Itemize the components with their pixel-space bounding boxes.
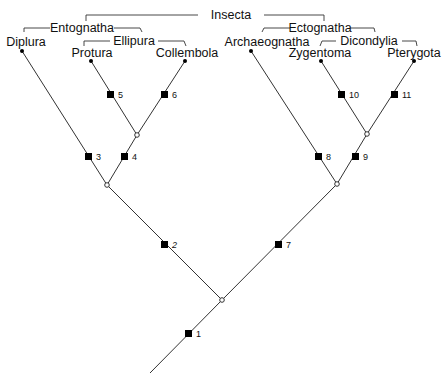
marker-1: [185, 330, 192, 337]
marker-6: [161, 91, 168, 98]
marker-4: [121, 153, 128, 160]
terminal-dot-diplura: [20, 49, 24, 53]
apomorphy-label-5: 5: [118, 90, 123, 100]
terminal-dot-pterygota: [412, 59, 416, 63]
taxon-label-diplura: Diplura: [6, 35, 46, 49]
apomorphy-label-4: 4: [132, 152, 137, 162]
node-insecta: [220, 298, 225, 303]
apomorphy-label-10: 10: [349, 90, 359, 100]
apomorphy-label-3: 3: [96, 152, 101, 162]
apomorphy-label-2: 2: [171, 240, 177, 250]
branch-diplura: [22, 51, 107, 185]
marker-7: [275, 241, 282, 248]
marker-10: [338, 91, 345, 98]
apomorphy-label-11: 11: [402, 90, 411, 100]
marker-11: [391, 91, 398, 98]
taxon-label-zygentoma: Zygentoma: [289, 46, 352, 60]
group-label-entognatha: Entognatha: [50, 21, 114, 35]
node-ellipura: [135, 133, 140, 138]
apomorphy-label-7: 7: [286, 240, 291, 250]
group-label-ectognatha: Ectognatha: [288, 21, 351, 35]
node-ectognatha: [335, 182, 340, 187]
taxon-label-protura: Protura: [72, 46, 113, 60]
taxon-label-collembola: Collembola: [156, 46, 219, 60]
apomorphy-markers: [85, 91, 398, 337]
marker-5: [107, 91, 114, 98]
cladogram: Insecta Entognatha Ellipura Ectognatha D…: [0, 0, 446, 385]
apomorphy-label-1: 1: [196, 329, 201, 339]
marker-8: [315, 153, 322, 160]
terminal-dot-collembola: [183, 59, 187, 63]
marker-2: [161, 241, 168, 248]
apomorphy-label-6: 6: [172, 90, 177, 100]
terminal-dot-zygentoma: [319, 59, 323, 63]
terminal-dot-archaeognatha: [249, 49, 253, 53]
node-dicondylia: [365, 132, 370, 137]
apomorphy-label-9: 9: [363, 152, 368, 162]
marker-9: [352, 153, 359, 160]
branch-archaeognatha: [251, 51, 337, 184]
group-label-ellipura: Ellipura: [113, 34, 155, 48]
node-entognatha: [105, 183, 110, 188]
group-label-insecta: Insecta: [211, 8, 251, 22]
apomorphy-label-8: 8: [326, 152, 331, 162]
terminal-dot-protura: [89, 59, 93, 63]
marker-3: [85, 153, 92, 160]
taxon-label-pterygota: Pterygota: [387, 46, 441, 60]
